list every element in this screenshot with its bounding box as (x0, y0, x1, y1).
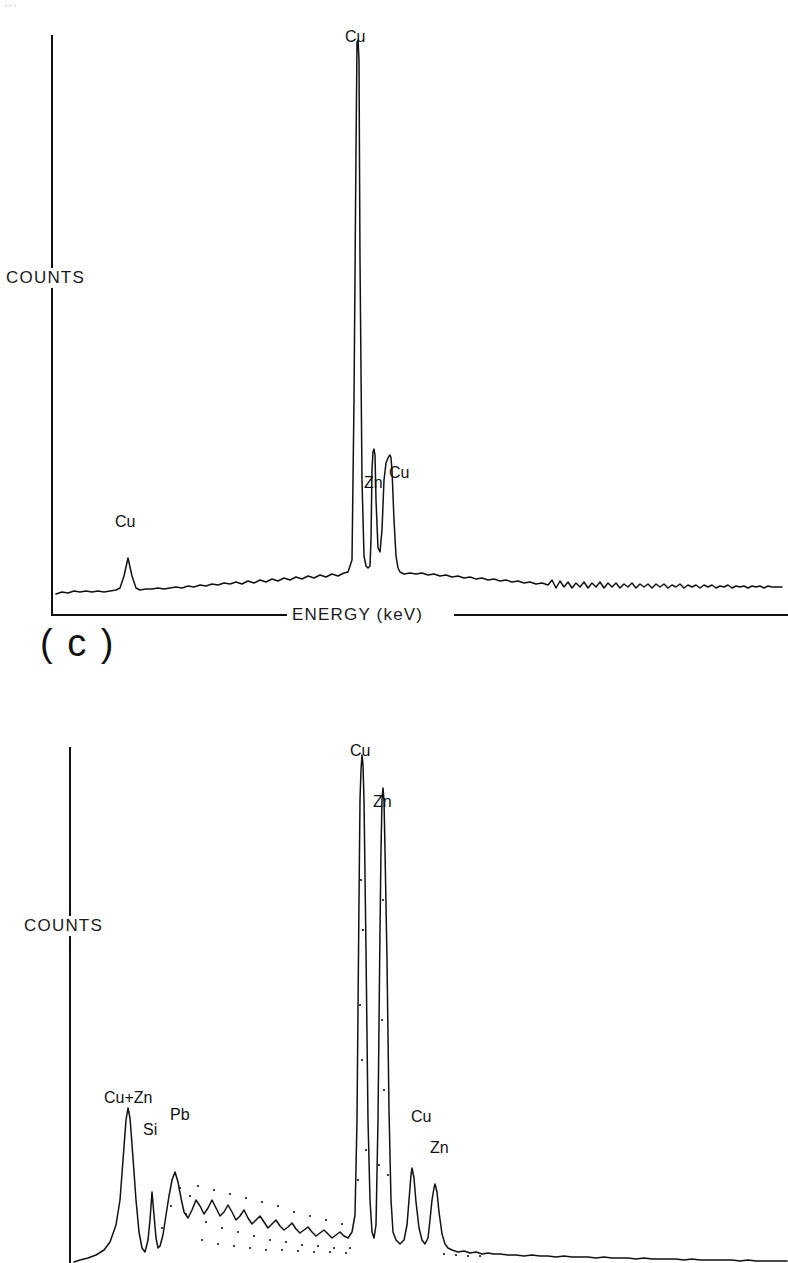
panel-d-peak-label-zn-kb: Zn (430, 1139, 449, 1157)
panel-d-spectrum-trace (74, 755, 787, 1262)
panel-d-peak-label-si: Si (143, 1121, 157, 1139)
panel-d-plot-svg (0, 0, 788, 1263)
panel-d-noise-scatter (161, 879, 481, 1257)
panel-d-y-axis-label: COUNTS (24, 916, 103, 936)
panel-d-peak-label-cu-kb: Cu (411, 1108, 431, 1126)
panel-d-peak-label-pb: Pb (170, 1106, 190, 1124)
panel-d-peak-label-cu-zn-l: Cu+Zn (104, 1089, 152, 1107)
panel-d-peak-label-zn-ka: Zn (373, 793, 392, 811)
panel-d-peak-label-cu-ka: Cu (350, 742, 370, 760)
